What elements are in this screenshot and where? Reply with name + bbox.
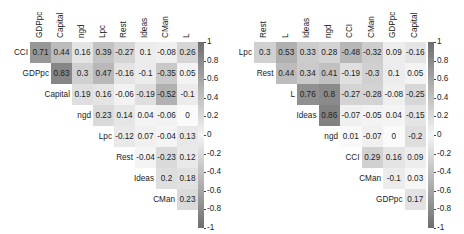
row-label: CCI: [14, 42, 28, 63]
column-label: ngd: [324, 24, 333, 38]
column-label: CCI: [345, 24, 354, 38]
heatmap-cell: -0.06: [114, 84, 135, 105]
heatmap-cell: -0.16: [114, 63, 135, 84]
colorbar-tick-mark: [434, 154, 436, 155]
column-label: GDPpc: [35, 12, 44, 38]
heatmap-cell: 0.83: [51, 63, 72, 84]
heatmap-cell: -0.04: [135, 147, 156, 168]
row-label: Ideas: [296, 105, 316, 126]
colorbar-tick-label: 0.4: [437, 93, 448, 102]
heatmap-cell: -0.08: [383, 84, 405, 105]
heatmap-cell: -0.16: [405, 42, 427, 63]
heatmap-cell: 0.47: [93, 63, 114, 84]
colorbar-tick-mark: [204, 42, 206, 43]
row-label: CCI: [345, 147, 359, 168]
heatmap-cell: 0: [383, 126, 405, 147]
heatmap-cell: 0.14: [114, 105, 135, 126]
column-label: Rest: [259, 21, 268, 38]
colorbar-tick-mark: [204, 228, 206, 229]
column-label: CMan: [161, 16, 170, 38]
heatmap-cell: 0.3: [254, 42, 276, 63]
colorbar-tick-label: -0.4: [207, 167, 221, 176]
heatmap-cell: -0.52: [156, 84, 177, 105]
heatmap-cell: -0.05: [362, 105, 384, 126]
row-label: Rest: [257, 63, 274, 84]
colorbar-tick-label: 0.8: [437, 56, 448, 65]
column-label: Ideas: [302, 18, 311, 38]
colorbar-tick-label: -1: [437, 223, 444, 232]
colorbar-tick-mark: [204, 135, 206, 136]
heatmap-cell: 0.2: [156, 168, 177, 189]
column-label: CMan: [367, 16, 376, 38]
colorbar-tick-mark: [434, 228, 436, 229]
row-label: ngd: [324, 126, 338, 147]
heatmap-cell: 0.29: [362, 147, 384, 168]
colorbar-tick-mark: [204, 116, 206, 117]
heatmap-cell: 0.16: [383, 147, 405, 168]
correlation-matrix-right: RestLIdeasngdCCICManGDPpcCapitalLpc0.30.…: [232, 0, 464, 234]
heatmap-cell: 0.34: [297, 63, 319, 84]
colorbar-tick-label: -0.8: [437, 204, 451, 213]
colorbar-tick-label: -0.8: [207, 204, 221, 213]
heatmap-cell: 0.41: [319, 63, 341, 84]
heatmap-cell: 0.09: [383, 42, 405, 63]
colorbar-tick-mark: [434, 135, 436, 136]
heatmap-cell: 0.8: [319, 84, 341, 105]
heatmap-cell: -0.12: [114, 126, 135, 147]
heatmap-cell: -0.25: [405, 84, 427, 105]
heatmap-cell: 0.53: [276, 42, 298, 63]
row-label: GDPpc: [376, 189, 402, 210]
heatmap-cell: 0.18: [177, 168, 198, 189]
heatmap-cell: -0.28: [362, 84, 384, 105]
row-label: Rest: [116, 147, 133, 168]
heatmap-cell: -0.27: [340, 84, 362, 105]
colorbar-tick-label: 0: [207, 130, 212, 139]
column-label: Capital: [410, 13, 419, 39]
row-label: Capital: [45, 84, 71, 105]
colorbar-tick-label: -0.2: [437, 149, 451, 158]
colorbar-tick-label: 0: [437, 130, 442, 139]
colorbar-tick-mark: [434, 191, 436, 192]
colorbar-tick-mark: [434, 98, 436, 99]
colorbar-tick-mark: [204, 98, 206, 99]
heatmap-cell: 0.3: [72, 63, 93, 84]
row-label: Lpc: [239, 42, 252, 63]
heatmap-cell: 0.13: [177, 126, 198, 147]
column-label: GDPpc: [388, 12, 397, 38]
column-label: ngd: [77, 24, 86, 38]
heatmap-cell: 0.16: [72, 42, 93, 63]
row-label: GDPpc: [23, 63, 49, 84]
row-label: CMan: [359, 168, 381, 189]
heatmap-cell: 0.39: [93, 42, 114, 63]
column-label: Capital: [56, 13, 65, 39]
heatmap-cell: 0.05: [177, 63, 198, 84]
heatmap-cell: 0.19: [72, 84, 93, 105]
heatmap-cell: 0.23: [93, 105, 114, 126]
heatmap-cell: -0.19: [340, 63, 362, 84]
heatmap-cell: 0.44: [51, 42, 72, 63]
heatmap-cell: -0.08: [156, 42, 177, 63]
heatmap-cell: 0.76: [297, 84, 319, 105]
heatmap-cell: 0.12: [177, 147, 198, 168]
heatmap-cell: 0.71: [30, 42, 51, 63]
colorbar-tick-mark: [434, 61, 436, 62]
heatmap-cell: -0.1: [383, 168, 405, 189]
heatmap-cell: 0.17: [405, 189, 427, 210]
heatmap-cell: -0.27: [114, 42, 135, 63]
heatmap-cell: -0.1: [135, 63, 156, 84]
colorbar-tick-mark: [434, 116, 436, 117]
row-label: L: [290, 84, 295, 105]
heatmap-cell: -0.23: [156, 147, 177, 168]
colorbar-tick-mark: [434, 172, 436, 173]
heatmap-cell: 0.09: [405, 147, 427, 168]
heatmap-cell: 0.07: [135, 126, 156, 147]
colorbar-tick-mark: [204, 79, 206, 80]
heatmap-cell: -0.3: [362, 63, 384, 84]
colorbar-tick-mark: [204, 209, 206, 210]
colorbar-tick-label: -0.2: [207, 149, 221, 158]
colorbar-tick-mark: [204, 172, 206, 173]
heatmap-cell: -0.07: [362, 126, 384, 147]
column-label: Ideas: [140, 18, 149, 38]
heatmap-cell: -0.48: [340, 42, 362, 63]
row-label: Lpc: [99, 126, 112, 147]
